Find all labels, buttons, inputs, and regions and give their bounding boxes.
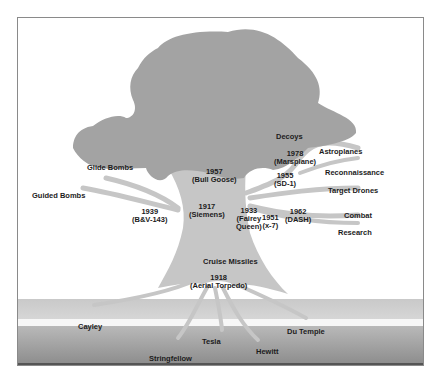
label-combat: Combat <box>344 212 372 220</box>
label-hewitt: Hewitt <box>256 348 279 356</box>
milestone-name: (B&V-143) <box>132 216 167 224</box>
root-stringfellow <box>178 286 208 338</box>
milestone-1918: 1918 (Aerial Torpedo) <box>190 274 247 290</box>
milestone-name: (SD-1) <box>274 180 296 188</box>
root-tesla <box>215 288 222 330</box>
label-du-temple: Du Temple <box>287 328 325 336</box>
milestone-1951: 1951 (x-7) <box>262 214 279 230</box>
milestone-1939: 1939 (B&V-143) <box>132 208 167 224</box>
diagram-frame: Glide Bombs Guided Bombs Decoys Astropla… <box>17 17 424 366</box>
milestone-name: (Aerial Torpedo) <box>190 282 247 290</box>
label-reconnaissance: Reconnaissance <box>325 169 384 177</box>
milestone-name: (Bull Goose) <box>192 176 237 184</box>
milestone-1933: 1933 (Fairey Queen) <box>236 207 262 231</box>
milestone-1957: 1957 (Bull Goose) <box>192 168 237 184</box>
label-cruise-missiles: Cruise Missiles <box>203 258 258 266</box>
milestone-1917: 1917 (Siemens) <box>189 203 225 219</box>
milestone-1978: 1978 (Marsplane) <box>274 150 316 166</box>
label-guided-bombs: Guided Bombs <box>32 192 85 200</box>
milestone-name-cont: Queen) <box>236 223 262 231</box>
label-stringfellow: Stringfellow <box>149 355 192 363</box>
label-cayley: Cayley <box>78 323 102 331</box>
milestone-name: (x-7) <box>262 222 279 230</box>
milestone-name: (DASH) <box>285 216 311 224</box>
milestone-1962: 1962 (DASH) <box>285 208 311 224</box>
milestone-1955: 1955 (SD-1) <box>274 172 296 188</box>
milestone-name: (Siemens) <box>189 211 225 219</box>
label-glide-bombs: Glide Bombs <box>87 164 133 172</box>
label-target-drones: Target Drones <box>328 187 378 195</box>
left-branches <box>83 178 178 210</box>
label-astroplanes: Astroplanes <box>319 148 362 156</box>
milestone-name: (Marsplane) <box>274 158 316 166</box>
label-research: Research <box>338 229 372 237</box>
label-tesla: Tesla <box>202 338 221 346</box>
label-decoys: Decoys <box>276 133 303 141</box>
root-hewitt <box>223 288 258 340</box>
